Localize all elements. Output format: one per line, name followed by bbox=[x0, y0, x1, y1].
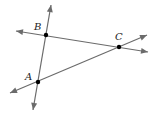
point-label-a: A bbox=[24, 71, 32, 82]
geometry-diagram: BCA bbox=[0, 0, 155, 120]
line-AC bbox=[10, 35, 147, 93]
arrowhead-icon bbox=[47, 5, 53, 12]
line-segment bbox=[10, 35, 147, 93]
point-label-b: B bbox=[33, 21, 41, 32]
point-label-c: C bbox=[115, 31, 123, 42]
point-c bbox=[117, 45, 121, 49]
lines-layer bbox=[10, 5, 148, 110]
arrowhead-icon bbox=[16, 29, 23, 35]
point-b bbox=[44, 33, 48, 37]
point-a bbox=[36, 80, 40, 84]
arrowhead-icon bbox=[141, 48, 148, 54]
line-BC bbox=[16, 29, 148, 54]
arrowhead-icon bbox=[31, 103, 37, 110]
line-segment bbox=[16, 31, 148, 52]
